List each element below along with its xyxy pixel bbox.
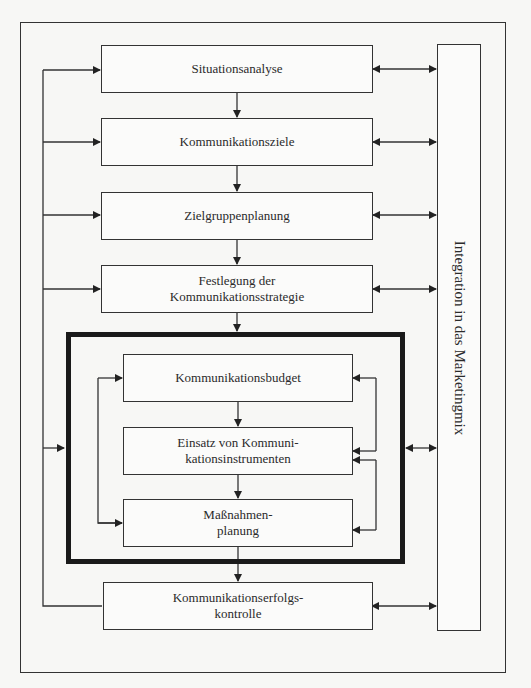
marketingmix-integration-bar: Integration in das Marketingmix [437,44,481,631]
step-kommunikationsbudget: Kommunikationsbudget [123,354,353,402]
step-zielgruppenplanung: Zielgruppenplanung [101,192,373,240]
step-label: Festlegung der Kommunikationsstrategie [170,273,304,305]
side-bar-label: Integration in das Marketingmix [451,240,468,435]
step-massnahmenplanung: Maßnahmen- planung [123,499,353,547]
step-kommunikationsziele: Kommunikationsziele [101,118,373,166]
step-erfolgskontrolle: Kommunikationserfolgs- kontrolle [103,582,373,630]
step-label: Zielgruppenplanung [184,208,289,224]
step-label: Einsatz von Kommuni- kationsinstrumenten [177,435,298,467]
step-label: Kommunikationserfolgs- kontrolle [173,590,304,622]
step-situationsanalyse: Situationsanalyse [101,45,373,93]
step-label: Kommunikationsziele [180,134,295,150]
step-kommunikationsstrategie: Festlegung der Kommunikationsstrategie [101,265,373,313]
step-einsatz-instrumente: Einsatz von Kommuni- kationsinstrumenten [123,427,353,475]
step-label: Situationsanalyse [192,61,283,77]
step-label: Maßnahmen- planung [203,507,272,539]
step-label: Kommunikationsbudget [175,370,301,386]
